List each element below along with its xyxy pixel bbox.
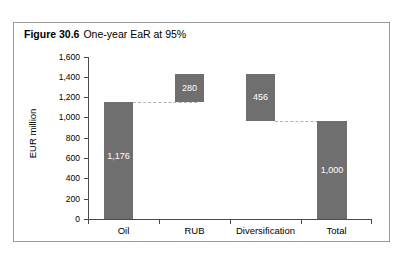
y-tick-label-1400: 1,400: [59, 73, 80, 82]
x-tick-mark-0: [88, 220, 89, 224]
x-tick-mark-3: [301, 220, 302, 224]
y-tick-label-1000: 1,000: [59, 113, 80, 122]
connector-oil-to-rub: [133, 102, 197, 103]
y-tick-label-800: 800: [66, 134, 80, 143]
x-tick-mark-1: [159, 220, 160, 224]
y-axis-title: EUR million: [27, 94, 38, 174]
x-tick-mark-4: [371, 220, 372, 224]
waterfall-chart: EUR million 0 200 400 600 800 1,000 1,20…: [14, 23, 391, 243]
y-tick-label-600: 600: [66, 154, 80, 163]
bar-value-total: 1,000: [317, 165, 347, 175]
x-tick-label-oil: Oil: [88, 225, 159, 237]
y-tick-mark-800: [84, 138, 88, 139]
y-tick-label-200: 200: [66, 195, 80, 204]
bar-value-diversification: 456: [246, 92, 275, 102]
y-tick-mark-600: [84, 158, 88, 159]
y-tick-label-1600: 1,600: [59, 53, 80, 62]
y-tick-mark-1600: [84, 57, 88, 58]
y-tick-mark-1400: [84, 77, 88, 78]
figure-container: Figure 30.6One-year EaR at 95% EUR milli…: [13, 22, 390, 242]
y-axis-line: [88, 57, 89, 220]
y-tick-label-1200: 1,200: [59, 93, 80, 102]
y-tick-label-0: 0: [75, 215, 80, 224]
x-tick-label-diversification: Diversification: [230, 225, 301, 237]
y-tick-mark-200: [84, 199, 88, 200]
y-tick-label-400: 400: [66, 174, 80, 183]
y-tick-mark-1000: [84, 117, 88, 118]
y-tick-mark-1200: [84, 97, 88, 98]
y-tick-mark-400: [84, 178, 88, 179]
x-tick-label-total: Total: [301, 225, 372, 237]
bar-value-oil: 1,176: [104, 151, 133, 161]
x-tick-mark-2: [230, 220, 231, 224]
x-tick-label-rub: RUB: [159, 225, 230, 237]
bar-value-rub: 280: [175, 83, 204, 93]
